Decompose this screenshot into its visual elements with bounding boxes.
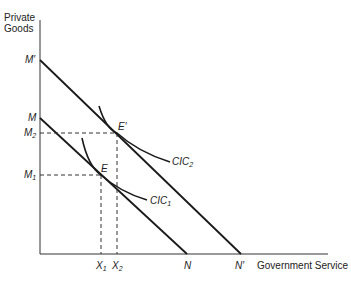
label-m2: M2 (24, 127, 36, 141)
label-cic2: CIC2 (172, 156, 193, 170)
label-n-prime: N′ (235, 260, 244, 271)
indifference-diagram (0, 0, 351, 284)
budget-line-mn (40, 118, 187, 254)
label-x2: X2 (112, 260, 123, 274)
label-m1: M1 (24, 169, 36, 183)
label-x1: X1 (96, 260, 107, 274)
label-cic1: CIC1 (150, 195, 171, 209)
label-m: M (28, 112, 36, 123)
x-axis-label: Government Service (257, 260, 348, 271)
label-m-prime: M′ (25, 54, 35, 65)
label-point-e-prime: E′ (118, 121, 127, 132)
curve-cic2 (99, 106, 170, 162)
label-point-e: E (101, 163, 108, 174)
budget-line-mprime-nprime (40, 60, 241, 254)
label-n: N (184, 260, 191, 271)
y-axis-label: Private Goods (4, 12, 35, 34)
